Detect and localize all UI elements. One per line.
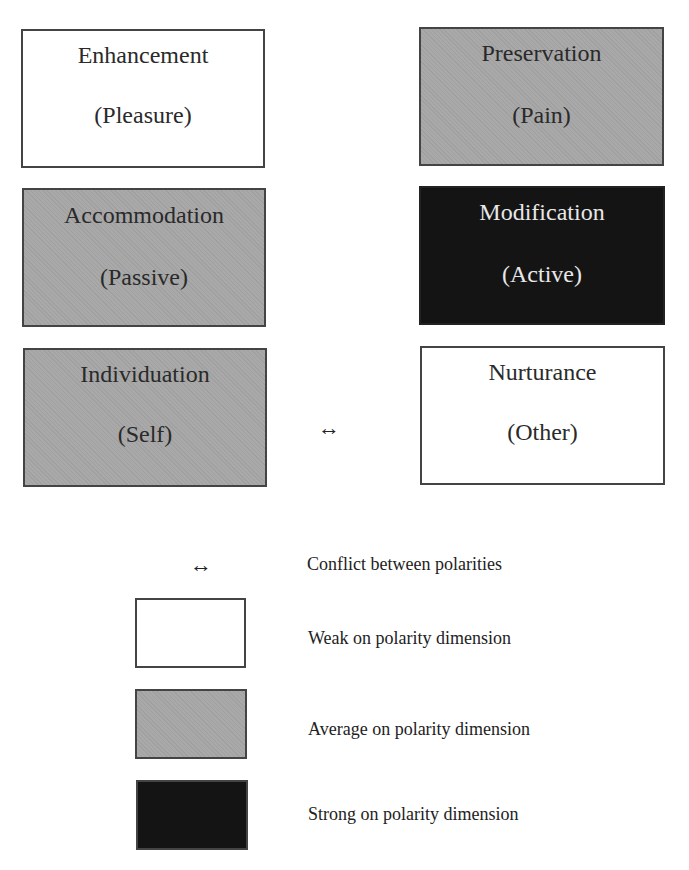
legend-conflict-arrow-icon: ↔ bbox=[190, 554, 212, 576]
box-subtitle: (Pain) bbox=[421, 101, 662, 129]
box-subtitle: (Active) bbox=[421, 260, 663, 288]
box-subtitle: (Self) bbox=[25, 420, 265, 448]
box-title: Enhancement bbox=[23, 41, 263, 69]
box-enhancement: Enhancement (Pleasure) bbox=[21, 29, 265, 168]
legend-label-weak: Weak on polarity dimension bbox=[308, 627, 511, 649]
box-subtitle: (Passive) bbox=[24, 263, 264, 291]
box-nurturance: Nurturance (Other) bbox=[420, 346, 665, 485]
box-title: Accommodation bbox=[24, 201, 264, 229]
box-title: Modification bbox=[421, 198, 663, 226]
box-subtitle: (Other) bbox=[422, 418, 663, 446]
legend-swatch-weak bbox=[135, 598, 246, 668]
conflict-arrow-icon: ↔ bbox=[318, 417, 340, 439]
box-title: Nurturance bbox=[422, 358, 663, 386]
box-title: Preservation bbox=[421, 39, 662, 67]
box-title: Individuation bbox=[25, 360, 265, 388]
legend-label-average: Average on polarity dimension bbox=[308, 718, 530, 740]
box-preservation: Preservation (Pain) bbox=[419, 27, 664, 166]
box-subtitle: (Pleasure) bbox=[23, 101, 263, 129]
legend-label-conflict: Conflict between polarities bbox=[307, 553, 502, 575]
legend-label-strong: Strong on polarity dimension bbox=[308, 803, 519, 825]
box-individuation: Individuation (Self) bbox=[23, 348, 267, 487]
legend-swatch-average bbox=[135, 689, 247, 759]
box-modification: Modification (Active) bbox=[419, 186, 665, 325]
box-accommodation: Accommodation (Passive) bbox=[22, 188, 266, 327]
legend-swatch-strong bbox=[136, 780, 248, 850]
